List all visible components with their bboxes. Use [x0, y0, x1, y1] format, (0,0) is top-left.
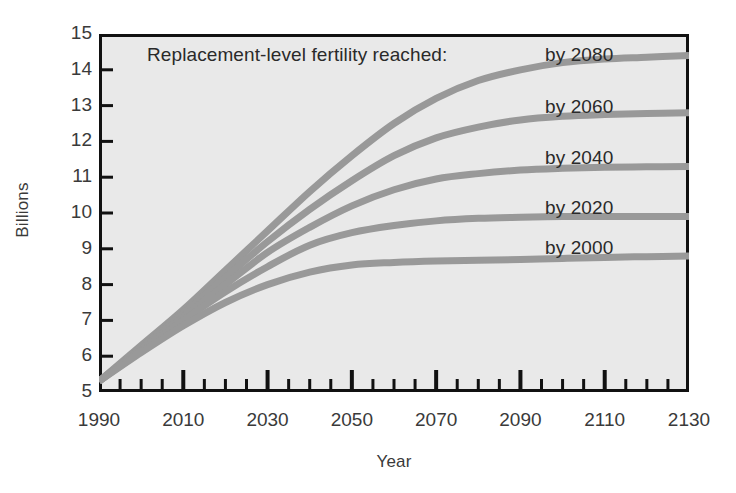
- x-axis-tick-labels: 19902010203020502070209021102130: [0, 0, 736, 493]
- x-tick-label: 2010: [143, 410, 223, 429]
- population-projection-figure: Billions 56789101112131415 Replacement-l…: [0, 0, 736, 493]
- x-tick-label: 2050: [312, 410, 392, 429]
- x-tick-label: 2070: [396, 410, 476, 429]
- x-axis-title: Year: [99, 452, 689, 472]
- x-tick-label: 2090: [480, 410, 560, 429]
- x-tick-label: 1990: [59, 410, 139, 429]
- x-tick-label: 2030: [228, 410, 308, 429]
- x-tick-label: 2110: [565, 410, 645, 429]
- x-tick-label: 2130: [649, 410, 729, 429]
